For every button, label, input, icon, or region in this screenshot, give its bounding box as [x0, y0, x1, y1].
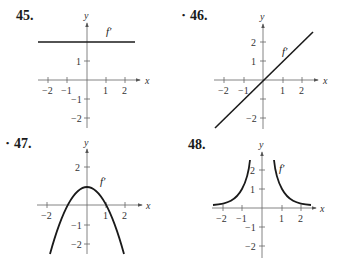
- graph-47: x y −2 1 2 2 −1 −2 f′: [37, 137, 151, 254]
- tick-label: 1: [103, 85, 108, 96]
- tick-label: 2: [122, 210, 127, 221]
- tick-label: 1: [280, 85, 285, 96]
- tick-label: −2: [218, 85, 229, 96]
- y-axis-label: y: [258, 139, 264, 150]
- tick-label: −2: [42, 85, 53, 96]
- tick-label: −2: [71, 239, 82, 250]
- function-label: f′: [279, 162, 285, 174]
- ticks: [47, 167, 125, 244]
- tick-label: 2: [299, 85, 304, 96]
- tick-label: −1: [238, 85, 249, 96]
- graph-45: x y −2 −1 1 2 1 −1 −2 f′: [38, 10, 150, 128]
- tick-label: 1: [76, 56, 81, 67]
- function-label: f′: [106, 25, 112, 37]
- tick-label: 2: [250, 165, 255, 176]
- exercise-page: 45. • 46. • 47. 48. x y −2 −1 1 2 1: [0, 0, 341, 264]
- tick-label: 2: [298, 213, 303, 224]
- tick-label: −2: [41, 210, 52, 221]
- tick-label: 1: [279, 213, 284, 224]
- graphs-canvas: x y −2 −1 1 2 1 −1 −2 f′ x y −2 −1: [0, 0, 341, 264]
- function-label: f′: [100, 175, 106, 187]
- graph-46: x y −2 −1 1 2 2 1 −2 f′: [214, 11, 328, 129]
- x-axis-label: x: [144, 75, 150, 86]
- tick-label: 2: [251, 37, 256, 48]
- tick-label: 1: [103, 210, 108, 221]
- tick-label: −1: [71, 220, 82, 231]
- graph-48: x y −2 −1 1 2 2 1 −1 −2 f′: [212, 139, 325, 258]
- ticks: [48, 61, 125, 118]
- tick-label: −2: [216, 213, 227, 224]
- tick-label: −1: [71, 94, 82, 105]
- function-curve-left: [213, 160, 250, 205]
- tick-label: 2: [122, 85, 127, 96]
- tick-label: 1: [251, 56, 256, 67]
- tick-label: −2: [245, 241, 256, 252]
- y-axis-label: y: [259, 11, 265, 22]
- x-axis-label: x: [322, 75, 328, 86]
- tick-label: 1: [250, 184, 255, 195]
- tick-label: −1: [245, 222, 256, 233]
- x-axis-label: x: [319, 203, 325, 214]
- x-axis-label: x: [145, 200, 151, 211]
- tick-label: 2: [75, 162, 80, 173]
- y-axis-label: y: [83, 10, 89, 21]
- function-label: f′: [282, 45, 288, 57]
- y-axis-label: y: [83, 137, 89, 148]
- tick-label: −2: [71, 113, 82, 124]
- tick-label: −2: [246, 113, 257, 124]
